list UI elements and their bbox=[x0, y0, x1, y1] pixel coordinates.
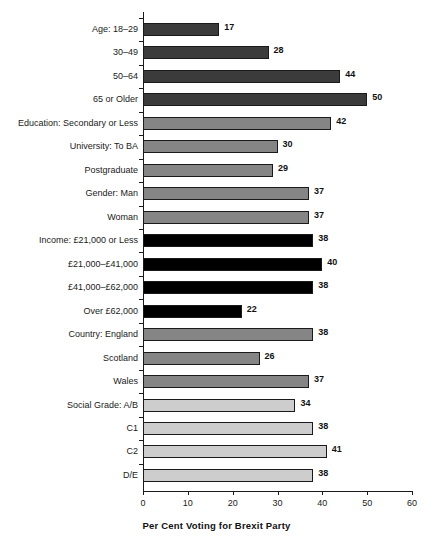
x-axis-tick bbox=[188, 491, 189, 495]
x-axis-title: Per Cent Voting for Brexit Party bbox=[0, 520, 433, 531]
bar-value-label: 40 bbox=[327, 256, 337, 269]
y-axis-tick bbox=[139, 393, 143, 394]
bar-value-label: 41 bbox=[332, 443, 342, 456]
y-axis-tick bbox=[139, 18, 143, 19]
category-label: C1 bbox=[0, 422, 138, 435]
y-axis-tick bbox=[139, 182, 143, 183]
bar bbox=[143, 70, 340, 83]
x-axis-tick-label: 10 bbox=[183, 498, 193, 508]
bar-value-label: 29 bbox=[278, 162, 288, 175]
category-label: Over £62,000 bbox=[0, 305, 138, 318]
category-label: 30–49 bbox=[0, 46, 138, 59]
bar bbox=[143, 164, 273, 177]
bar-value-label: 37 bbox=[314, 209, 324, 222]
category-label: Gender: Man bbox=[0, 187, 138, 200]
x-axis-tick bbox=[322, 491, 323, 495]
bar bbox=[143, 258, 322, 271]
bar bbox=[143, 234, 313, 247]
category-label: Income: £21,000 or Less bbox=[0, 234, 138, 247]
category-label: £41,000–£62,000 bbox=[0, 281, 138, 294]
bar bbox=[143, 305, 242, 318]
y-axis-tick bbox=[139, 299, 143, 300]
bar-value-label: 22 bbox=[247, 303, 257, 316]
x-axis-tick-label: 50 bbox=[362, 498, 372, 508]
x-axis-tick bbox=[412, 491, 413, 495]
bar-value-label: 38 bbox=[318, 279, 328, 292]
bar bbox=[143, 187, 309, 200]
category-label: 50–64 bbox=[0, 70, 138, 83]
bar bbox=[143, 140, 278, 153]
bar-value-label: 17 bbox=[224, 21, 234, 34]
bar-value-label: 38 bbox=[318, 232, 328, 245]
category-label: Country: England bbox=[0, 328, 138, 341]
category-label: Age: 18–29 bbox=[0, 23, 138, 36]
plot-area: 1728445042302937373840382238263734384138… bbox=[143, 12, 412, 491]
y-axis-tick bbox=[139, 464, 143, 465]
y-axis-tick bbox=[139, 276, 143, 277]
y-axis-tick bbox=[139, 41, 143, 42]
x-axis-tick bbox=[278, 491, 279, 495]
bar-value-label: 44 bbox=[345, 68, 355, 81]
category-label: Woman bbox=[0, 211, 138, 224]
x-axis-tick bbox=[143, 491, 144, 495]
category-label: University: To BA bbox=[0, 140, 138, 153]
bar bbox=[143, 281, 313, 294]
y-axis-line bbox=[143, 12, 144, 491]
bar bbox=[143, 93, 367, 106]
category-label: 65 or Older bbox=[0, 93, 138, 106]
bar bbox=[143, 211, 309, 224]
bar bbox=[143, 422, 313, 435]
category-label: Wales bbox=[0, 375, 138, 388]
bar bbox=[143, 445, 327, 458]
bar-value-label: 42 bbox=[336, 115, 346, 128]
y-axis-tick bbox=[139, 417, 143, 418]
bar bbox=[143, 117, 331, 130]
bar-value-label: 28 bbox=[274, 44, 284, 57]
bar-value-label: 38 bbox=[318, 420, 328, 433]
bar bbox=[143, 352, 260, 365]
y-axis-tick bbox=[139, 65, 143, 66]
bar-value-label: 37 bbox=[314, 373, 324, 386]
bar-value-label: 34 bbox=[300, 397, 310, 410]
bar bbox=[143, 399, 295, 412]
bar bbox=[143, 469, 313, 482]
bar-value-label: 38 bbox=[318, 326, 328, 339]
bar bbox=[143, 46, 269, 59]
x-axis-tick-label: 40 bbox=[317, 498, 327, 508]
y-axis-tick bbox=[139, 88, 143, 89]
bar-value-label: 50 bbox=[372, 91, 382, 104]
category-axis-labels: Age: 18–2930–4950–6465 or OlderEducation… bbox=[0, 12, 138, 491]
bar bbox=[143, 23, 219, 36]
category-label: D/E bbox=[0, 469, 138, 482]
x-axis-tick-label: 30 bbox=[272, 498, 282, 508]
category-label: £21,000–£41,000 bbox=[0, 258, 138, 271]
category-label: Social Grade: A/B bbox=[0, 399, 138, 412]
bar-value-label: 37 bbox=[314, 185, 324, 198]
y-axis-tick bbox=[139, 135, 143, 136]
bar-value-label: 26 bbox=[265, 350, 275, 363]
x-axis-tick-label: 60 bbox=[407, 498, 417, 508]
category-label: Postgraduate bbox=[0, 164, 138, 177]
y-axis-tick bbox=[139, 346, 143, 347]
bar bbox=[143, 328, 313, 341]
category-label: Education: Secondary or Less bbox=[0, 117, 138, 130]
y-axis-tick bbox=[139, 112, 143, 113]
category-label: Scotland bbox=[0, 352, 138, 365]
x-axis-tick-label: 20 bbox=[228, 498, 238, 508]
bar-value-label: 30 bbox=[283, 138, 293, 151]
y-axis-tick bbox=[139, 159, 143, 160]
x-axis-tick bbox=[367, 491, 368, 495]
y-axis-tick bbox=[139, 370, 143, 371]
bar-chart: Age: 18–2930–4950–6465 or OlderEducation… bbox=[0, 0, 433, 544]
y-axis-tick bbox=[139, 252, 143, 253]
y-axis-tick bbox=[139, 440, 143, 441]
bar-value-label: 38 bbox=[318, 467, 328, 480]
category-label: C2 bbox=[0, 445, 138, 458]
x-axis-tick-label: 0 bbox=[140, 498, 145, 508]
bar bbox=[143, 375, 309, 388]
x-axis-tick bbox=[233, 491, 234, 495]
y-axis-tick bbox=[139, 206, 143, 207]
y-axis-tick bbox=[139, 229, 143, 230]
y-axis-tick bbox=[139, 323, 143, 324]
